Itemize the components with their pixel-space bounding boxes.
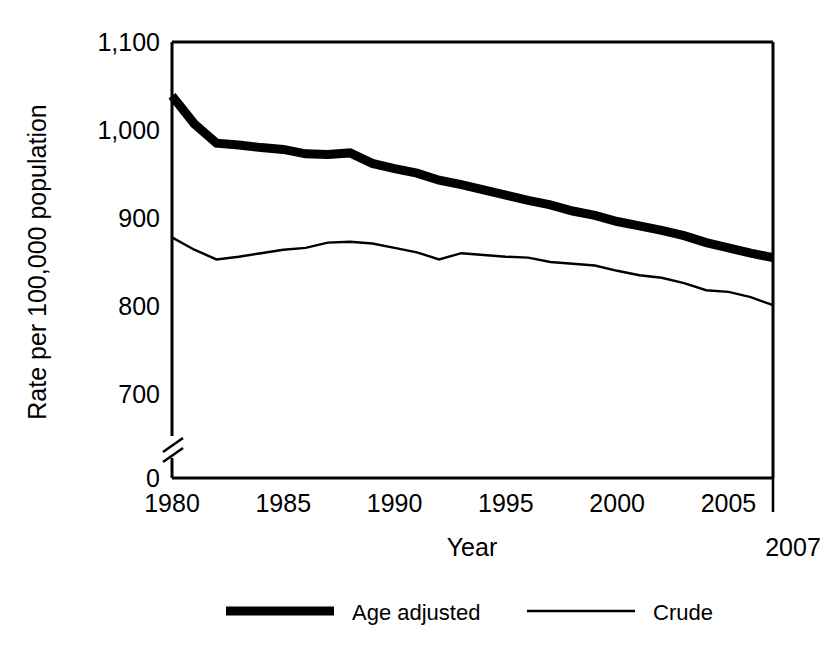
y-tick-label: 900 [118,204,160,232]
x-tick-labels: 198019851990199520002005 [144,489,756,517]
chart-container: 1,1001,0009008007000 1980198519901995200… [0,0,833,647]
y-tick-label: 1,100 [97,28,160,56]
x-tick-label: 2005 [701,489,757,517]
legend-label-age-adjusted: Age adjusted [352,600,480,625]
y-tick-label: 700 [118,380,160,408]
series-line-age-adjusted [172,96,773,258]
x-tick-label: 1980 [144,489,200,517]
x-tick-label: 1995 [478,489,534,517]
data-series-group [172,96,773,305]
y-tick-label: 1,000 [97,116,160,144]
plot-frame [163,42,773,512]
y-tick-label: 800 [118,292,160,320]
series-line-crude [172,237,773,305]
y-tick-label: 0 [146,464,160,492]
y-axis-title: Rate per 100,000 population [23,104,51,420]
x-axis-title: Year [447,533,498,561]
x-tick-label: 1990 [367,489,423,517]
y-tick-labels: 1,1001,0009008007000 [97,28,160,492]
x-tick-label-2007: 2007 [765,533,821,561]
x-tick-label: 1985 [255,489,311,517]
x-tick-label: 2000 [589,489,645,517]
line-chart: 1,1001,0009008007000 1980198519901995200… [0,0,833,647]
chart-legend: Age adjusted Crude [226,600,713,625]
legend-label-crude: Crude [653,600,713,625]
